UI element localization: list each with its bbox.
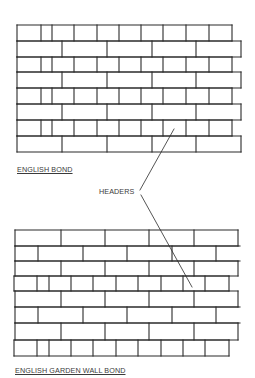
- headers-leader-lines: [140, 129, 192, 287]
- english-garden-wall-bond-label: ENGLISH GARDEN WALL BOND: [15, 367, 126, 374]
- headers-callout-label: HEADERS: [99, 188, 134, 195]
- english-bond-wall: [17, 25, 241, 152]
- english-garden-wall-bond-wall: [14, 230, 240, 356]
- english-bond-label: ENGLISH BOND: [17, 166, 73, 173]
